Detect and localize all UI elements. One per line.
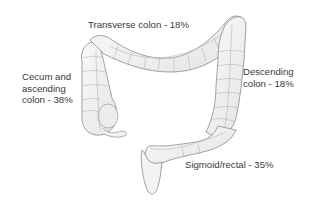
label-transverse-colon: Transverse colon - 18% — [88, 19, 189, 31]
label-sigmoid-rectal: Sigmoid/rectal - 35% — [185, 159, 274, 171]
label-line: ascending — [22, 83, 73, 95]
label-descending-colon: Descending colon - 18% — [243, 66, 294, 89]
label-line: colon - 38% — [22, 94, 73, 106]
label-cecum-ascending-colon: Cecum and ascending colon - 38% — [22, 71, 73, 106]
label-line: colon - 18% — [243, 78, 294, 90]
label-line: Sigmoid/rectal - 35% — [185, 159, 274, 171]
label-line: Cecum and — [22, 71, 73, 83]
label-line: Transverse colon - 18% — [88, 19, 189, 31]
colon-diagram: Transverse colon - 18% Cecum and ascendi… — [0, 0, 310, 206]
label-line: Descending — [243, 66, 294, 78]
descending-colon-shape — [206, 17, 246, 138]
